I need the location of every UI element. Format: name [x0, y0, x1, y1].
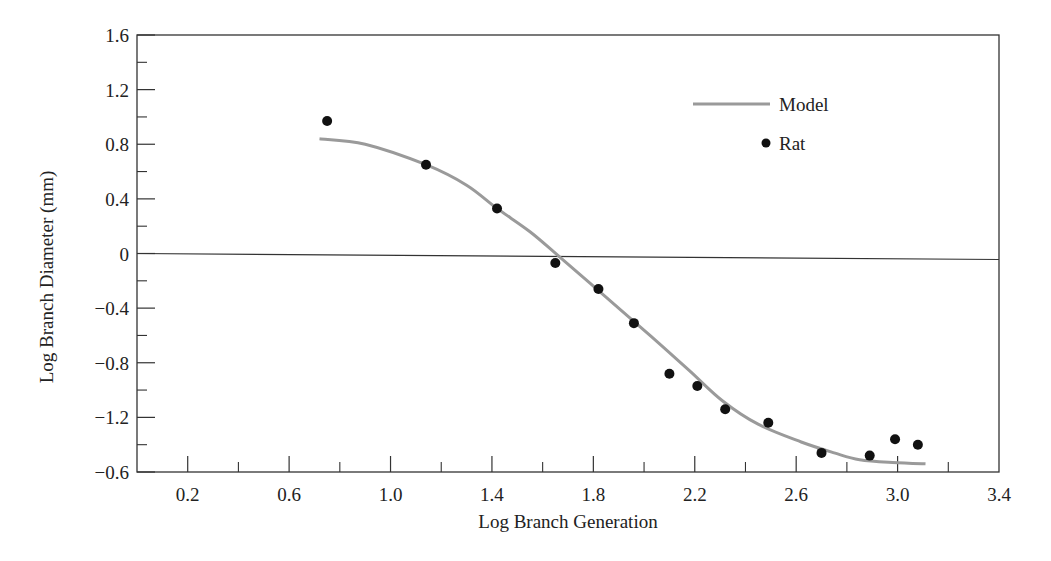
x-tick-label: 1.4	[480, 484, 504, 505]
legend-model-label: Model	[779, 94, 829, 115]
rat-data-point	[913, 440, 923, 450]
y-tick-label: −0.6	[95, 462, 129, 483]
y-tick-label: −1.2	[95, 407, 129, 428]
rat-data-point	[865, 451, 875, 461]
rat-data-point	[720, 404, 730, 414]
legend-rat-marker	[762, 139, 771, 148]
model-line	[320, 139, 926, 464]
legend: Model Rat	[693, 94, 829, 154]
zero-reference-line	[137, 254, 999, 260]
x-tick-label: 1.0	[379, 484, 403, 505]
x-tick-label: 0.2	[176, 484, 200, 505]
rat-data-point	[593, 284, 603, 294]
rat-data-point	[890, 434, 900, 444]
x-axis-title: Log Branch Generation	[478, 511, 658, 532]
x-tick-label: 2.6	[784, 484, 808, 505]
x-tick-label: 2.2	[683, 484, 707, 505]
chart-canvas: 1.61.20.80.40−0.4−0.8−1.2−0.6 0.20.61.01…	[0, 0, 1051, 561]
rat-data-point	[629, 318, 639, 328]
y-axis-ticks: 1.61.20.80.40−0.4−0.8−1.2−0.6	[95, 25, 155, 483]
legend-rat-label: Rat	[779, 133, 806, 154]
plot-frame	[137, 35, 999, 472]
y-tick-label: 0.8	[105, 134, 129, 155]
rat-data-point	[322, 116, 332, 126]
y-tick-label: 0.4	[105, 189, 129, 210]
rat-data-point	[421, 160, 431, 170]
y-tick-label: 0	[120, 244, 130, 265]
rat-data-point	[550, 258, 560, 268]
x-tick-label: 3.4	[987, 484, 1011, 505]
rat-data-point	[492, 203, 502, 213]
x-tick-label: 0.6	[277, 484, 301, 505]
zero-line	[137, 254, 999, 260]
rat-data-point	[763, 418, 773, 428]
x-tick-label: 3.0	[886, 484, 910, 505]
y-tick-label: −0.8	[95, 353, 129, 374]
rat-data-points	[322, 116, 923, 461]
y-tick-label: −0.4	[95, 298, 130, 319]
y-tick-label: 1.6	[105, 25, 129, 46]
y-tick-label: 1.2	[105, 80, 129, 101]
plot-border	[137, 35, 999, 472]
rat-data-point	[664, 369, 674, 379]
rat-data-point	[817, 448, 827, 458]
y-axis-title: Log Branch Diameter (mm)	[36, 171, 58, 384]
model-curve	[320, 139, 926, 464]
x-tick-label: 1.8	[581, 484, 605, 505]
rat-data-point	[692, 381, 702, 391]
